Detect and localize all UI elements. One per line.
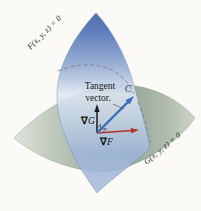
- figure-canvas: Tangent vector. C ∇G ∇F F(x, y, z) = 0 G…: [0, 0, 201, 211]
- grad-f-letter: F: [106, 137, 113, 147]
- curve-c-label: C: [125, 83, 132, 94]
- grad-f-label: ∇F: [99, 137, 113, 147]
- grad-g-letter: G: [88, 116, 95, 126]
- tangent-label-line1: Tangent: [85, 81, 116, 91]
- grad-g-label: ∇G: [80, 116, 95, 126]
- tangent-label-line2: vector.: [85, 93, 111, 103]
- surfaces-intersection-figure: Tangent vector. C ∇G ∇F F(x, y, z) = 0 G…: [0, 0, 201, 211]
